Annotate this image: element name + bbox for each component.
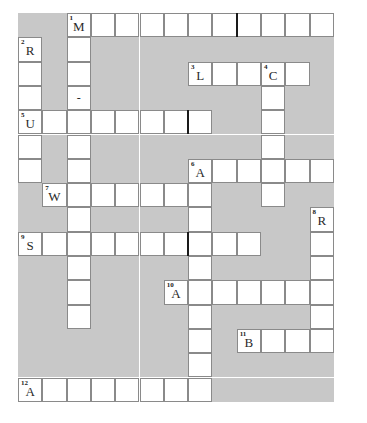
crossword-cell[interactable] (18, 135, 42, 159)
crossword-cell[interactable] (164, 110, 188, 134)
crossword-cell[interactable] (91, 110, 115, 134)
crossword-cell[interactable] (42, 232, 66, 256)
crossword-cell[interactable] (285, 329, 309, 353)
crossword-cell[interactable] (67, 110, 91, 134)
crossword-cell[interactable] (310, 280, 334, 304)
crossword-cell[interactable] (67, 378, 91, 402)
crossword-cell[interactable] (310, 159, 334, 183)
crossword-cell[interactable]: 4C (261, 62, 285, 86)
crossword-cell[interactable] (261, 329, 285, 353)
crossword-cell[interactable] (237, 280, 261, 304)
crossword-grid[interactable]: 1M2R3L4C-5U6A7W8R9S10A11B12A (18, 13, 333, 409)
crossword-cell[interactable]: 12A (18, 378, 42, 402)
crossword-cell[interactable] (212, 280, 236, 304)
crossword-cell[interactable] (310, 13, 334, 37)
crossword-cell[interactable] (188, 13, 212, 37)
crossword-cell[interactable]: 8R (310, 207, 334, 231)
crossword-cell[interactable] (261, 159, 285, 183)
crossword-cell[interactable] (140, 13, 164, 37)
crossword-cell[interactable]: 3L (188, 62, 212, 86)
crossword-cell[interactable] (188, 329, 212, 353)
crossword-cell[interactable] (140, 183, 164, 207)
crossword-cell[interactable] (115, 378, 139, 402)
crossword-cell[interactable] (188, 110, 212, 134)
crossword-cell[interactable] (188, 280, 212, 304)
crossword-cell[interactable] (67, 305, 91, 329)
crossword-cell[interactable] (91, 183, 115, 207)
crossword-cell[interactable] (67, 37, 91, 61)
crossword-cell[interactable] (261, 280, 285, 304)
crossword-cell[interactable] (188, 353, 212, 377)
crossword-cell[interactable] (18, 62, 42, 86)
crossword-cell[interactable] (140, 110, 164, 134)
crossword-cell[interactable] (164, 13, 188, 37)
crossword-block-cell (42, 135, 66, 159)
crossword-cell[interactable] (237, 13, 261, 37)
crossword-cell[interactable] (67, 280, 91, 304)
crossword-cell[interactable] (310, 232, 334, 256)
crossword-cell[interactable]: 11B (237, 329, 261, 353)
crossword-cell[interactable] (261, 86, 285, 110)
crossword-cell[interactable] (42, 110, 66, 134)
crossword-block-cell (285, 232, 309, 256)
crossword-cell[interactable] (164, 232, 188, 256)
crossword-cell[interactable] (140, 378, 164, 402)
crossword-cell[interactable] (188, 207, 212, 231)
crossword-cell[interactable] (164, 378, 188, 402)
crossword-cell[interactable] (188, 183, 212, 207)
crossword-block-cell (212, 305, 236, 329)
crossword-cell[interactable] (67, 256, 91, 280)
crossword-cell[interactable] (212, 62, 236, 86)
crossword-cell[interactable] (91, 13, 115, 37)
crossword-cell[interactable] (115, 183, 139, 207)
crossword-cell[interactable] (188, 256, 212, 280)
crossword-cell[interactable] (285, 13, 309, 37)
crossword-cell[interactable] (67, 159, 91, 183)
crossword-cell[interactable] (261, 135, 285, 159)
crossword-cell[interactable] (310, 329, 334, 353)
crossword-cell[interactable]: 1M (67, 13, 91, 37)
crossword-cell[interactable]: 10A (164, 280, 188, 304)
crossword-cell[interactable] (188, 232, 212, 256)
crossword-cell[interactable] (67, 232, 91, 256)
crossword-cell[interactable] (91, 232, 115, 256)
crossword-block-cell (140, 159, 164, 183)
crossword-cell[interactable] (237, 62, 261, 86)
crossword-cell[interactable] (237, 232, 261, 256)
crossword-cell[interactable] (18, 159, 42, 183)
crossword-cell[interactable] (164, 183, 188, 207)
crossword-cell[interactable] (42, 378, 66, 402)
crossword-cell[interactable] (285, 62, 309, 86)
crossword-cell-letter: S (19, 238, 41, 254)
crossword-cell[interactable] (212, 13, 236, 37)
crossword-cell[interactable] (188, 378, 212, 402)
crossword-cell[interactable]: 9S (18, 232, 42, 256)
crossword-cell[interactable] (115, 110, 139, 134)
crossword-cell[interactable] (115, 232, 139, 256)
crossword-cell[interactable] (212, 232, 236, 256)
crossword-cell[interactable] (115, 13, 139, 37)
crossword-cell[interactable] (310, 305, 334, 329)
crossword-cell[interactable] (261, 110, 285, 134)
crossword-cell[interactable] (67, 183, 91, 207)
crossword-cell[interactable] (237, 159, 261, 183)
crossword-cell[interactable] (67, 62, 91, 86)
crossword-cell[interactable]: 5U (18, 110, 42, 134)
crossword-word-divider (236, 13, 238, 37)
crossword-cell[interactable] (140, 232, 164, 256)
crossword-cell[interactable]: 6A (188, 159, 212, 183)
crossword-cell[interactable] (285, 159, 309, 183)
crossword-cell[interactable]: 7W (42, 183, 66, 207)
crossword-cell[interactable] (67, 207, 91, 231)
crossword-cell[interactable] (67, 135, 91, 159)
crossword-cell[interactable]: - (67, 86, 91, 110)
crossword-cell[interactable] (310, 256, 334, 280)
crossword-cell[interactable] (261, 183, 285, 207)
crossword-cell[interactable] (285, 280, 309, 304)
crossword-cell[interactable] (188, 305, 212, 329)
crossword-cell[interactable] (261, 13, 285, 37)
crossword-cell[interactable] (91, 378, 115, 402)
crossword-cell[interactable] (212, 159, 236, 183)
crossword-cell[interactable] (18, 86, 42, 110)
crossword-cell[interactable]: 2R (18, 37, 42, 61)
